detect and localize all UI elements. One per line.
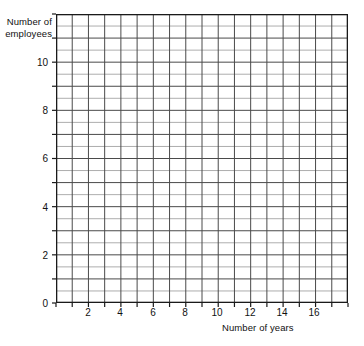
- axis-ticks: [0, 0, 364, 346]
- y-tick-label: 2: [28, 250, 48, 261]
- y-tick-label: 0: [28, 298, 48, 309]
- y-tick-label: 4: [28, 202, 48, 213]
- y-tick-label: 10: [28, 57, 48, 68]
- x-axis-title: Number of years: [222, 322, 358, 334]
- x-tick-label: 2: [78, 307, 98, 318]
- x-tick-label: 8: [175, 307, 195, 318]
- x-tick-label: 16: [304, 307, 324, 318]
- y-tick-label: 6: [28, 153, 48, 164]
- y-tick-label: 8: [28, 105, 48, 116]
- x-tick-label: 10: [207, 307, 227, 318]
- graph-paper-chart: Number of employees 1086420 246810121416…: [0, 0, 364, 346]
- x-tick-label: 14: [272, 307, 292, 318]
- x-tick-label: 12: [240, 307, 260, 318]
- x-tick-label: 6: [143, 307, 163, 318]
- x-tick-label: 4: [110, 307, 130, 318]
